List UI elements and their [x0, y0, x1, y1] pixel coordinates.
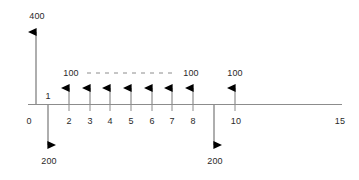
- axis-tick-label-5: 5: [128, 116, 133, 126]
- label-outflow-left-value: 200: [41, 156, 57, 166]
- axis-tick-label-4: 4: [107, 116, 112, 126]
- label-period-one: 1: [45, 91, 50, 101]
- label-initial-inflow-value: 400: [29, 11, 45, 21]
- axis-tick-label-8: 8: [190, 116, 195, 126]
- diagram-canvas: [0, 0, 359, 180]
- label-series-end-value: 100: [183, 68, 199, 78]
- axis-tick-label-3: 3: [87, 116, 92, 126]
- axis-tick-label-2: 2: [66, 116, 71, 126]
- label-single-inflow-value: 100: [227, 68, 243, 78]
- axis-tick-label-7: 7: [169, 116, 174, 126]
- label-series-start-value: 100: [63, 68, 79, 78]
- axis-tick-label-10: 10: [231, 116, 241, 126]
- axis-tick-label-6: 6: [149, 116, 154, 126]
- axis-tick-marks: [69, 105, 235, 112]
- uniform-series-arrows: [69, 88, 193, 104]
- axis-tick-label-15: 15: [335, 116, 345, 126]
- axis-tick-label-0: 0: [26, 116, 31, 126]
- cash-flow-diagram: 400 1 100 100 100 200 200 0 2 3 4 5 6 7 …: [0, 0, 359, 180]
- label-outflow-right-value: 200: [207, 156, 223, 166]
